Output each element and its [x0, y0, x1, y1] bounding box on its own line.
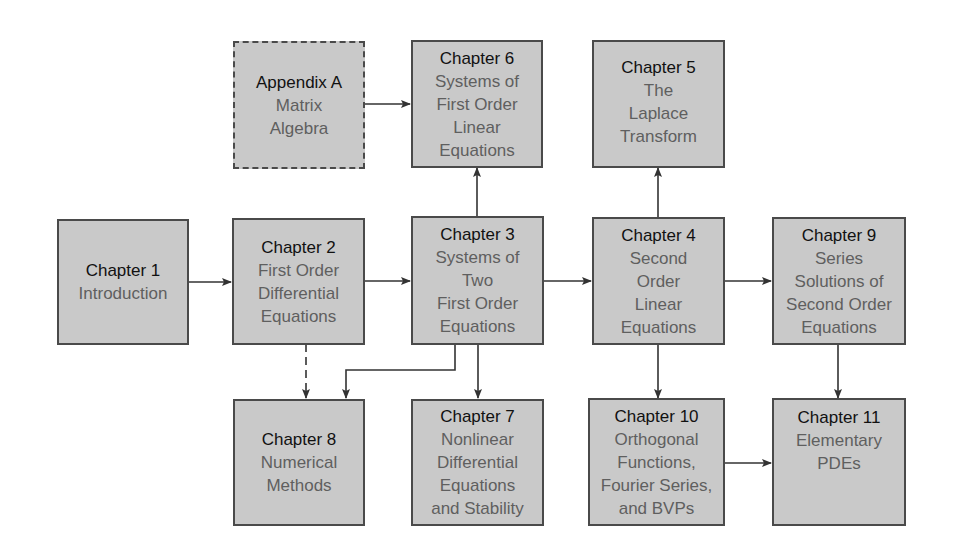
- node-subtitle-line: Transform: [620, 125, 697, 148]
- node-subtitle-line: Equations: [440, 315, 516, 338]
- node-subtitle-line: and Stability: [431, 497, 524, 520]
- node-subtitle-line: Laplace: [629, 102, 689, 125]
- node-subtitle-line: Second: [630, 247, 688, 270]
- node-chapter-11[interactable]: Chapter 11 Elementary PDEs: [772, 398, 906, 526]
- node-chapter-1[interactable]: Chapter 1 Introduction: [57, 219, 189, 345]
- node-subtitle-line: Differential: [258, 282, 339, 305]
- node-subtitle-line: Algebra: [270, 117, 329, 140]
- node-subtitle-line: Linear: [635, 293, 682, 316]
- node-heading: Chapter 6: [440, 47, 515, 70]
- node-subtitle-line: Equations: [439, 139, 515, 162]
- node-subtitle-line: Equations: [440, 474, 516, 497]
- node-subtitle-line: Fourier Series,: [601, 474, 712, 497]
- node-chapter-5[interactable]: Chapter 5 The Laplace Transform: [592, 40, 725, 168]
- node-subtitle-line: Systems of: [435, 70, 519, 93]
- node-subtitle-line: Equations: [261, 305, 337, 328]
- node-subtitle-line: First Order: [437, 292, 518, 315]
- node-heading: Appendix A: [256, 71, 342, 94]
- node-heading: Chapter 4: [621, 224, 696, 247]
- node-subtitle-line: Order: [637, 270, 680, 293]
- node-subtitle-line: Matrix: [276, 94, 322, 117]
- node-heading: Chapter 3: [440, 223, 515, 246]
- node-subtitle-line: Second Order: [786, 293, 892, 316]
- node-subtitle-line: Functions,: [617, 451, 695, 474]
- node-subtitle-line: Differential: [437, 451, 518, 474]
- node-heading: Chapter 10: [614, 405, 698, 428]
- node-subtitle-line: Introduction: [79, 282, 168, 305]
- node-heading: Chapter 1: [86, 259, 161, 282]
- node-subtitle-line: Numerical: [261, 451, 338, 474]
- node-subtitle-line: First Order: [436, 93, 517, 116]
- chapter-dependency-diagram: Appendix A Matrix Algebra Chapter 6 Syst…: [0, 0, 956, 557]
- node-subtitle-line: The: [644, 79, 673, 102]
- node-heading: Chapter 7: [440, 405, 515, 428]
- node-subtitle-line: Series: [815, 247, 863, 270]
- node-subtitle-line: PDEs: [817, 452, 860, 475]
- node-subtitle-line: Solutions of: [795, 270, 884, 293]
- node-appendix-a[interactable]: Appendix A Matrix Algebra: [233, 41, 365, 169]
- node-subtitle-line: Orthogonal: [614, 428, 698, 451]
- node-heading: Chapter 2: [261, 236, 336, 259]
- node-subtitle-line: and BVPs: [619, 497, 695, 520]
- node-chapter-2[interactable]: Chapter 2 First Order Differential Equat…: [232, 218, 365, 345]
- node-chapter-8[interactable]: Chapter 8 Numerical Methods: [233, 399, 365, 526]
- node-subtitle-line: Two: [462, 269, 493, 292]
- node-heading: Chapter 5: [621, 56, 696, 79]
- node-subtitle-line: Elementary: [796, 429, 882, 452]
- node-heading: Chapter 11: [798, 406, 881, 429]
- node-chapter-4[interactable]: Chapter 4 Second Order Linear Equations: [592, 217, 725, 345]
- node-subtitle-line: Methods: [266, 474, 331, 497]
- node-chapter-7[interactable]: Chapter 7 Nonlinear Differential Equatio…: [411, 399, 544, 526]
- node-chapter-6[interactable]: Chapter 6 Systems of First Order Linear …: [411, 40, 543, 168]
- node-subtitle-line: Equations: [621, 316, 697, 339]
- node-subtitle-line: Nonlinear: [441, 428, 514, 451]
- node-chapter-9[interactable]: Chapter 9 Series Solutions of Second Ord…: [772, 217, 906, 345]
- node-heading: Chapter 8: [262, 428, 337, 451]
- node-subtitle-line: First Order: [258, 259, 339, 282]
- node-chapter-10[interactable]: Chapter 10 Orthogonal Functions, Fourier…: [588, 398, 725, 526]
- node-chapter-3[interactable]: Chapter 3 Systems of Two First Order Equ…: [411, 216, 544, 345]
- node-subtitle-line: Systems of: [435, 246, 519, 269]
- node-subtitle-line: Equations: [801, 316, 877, 339]
- arrow-ch3-to-ch8: [346, 344, 455, 398]
- node-subtitle-line: Linear: [453, 116, 500, 139]
- node-heading: Chapter 9: [802, 224, 877, 247]
